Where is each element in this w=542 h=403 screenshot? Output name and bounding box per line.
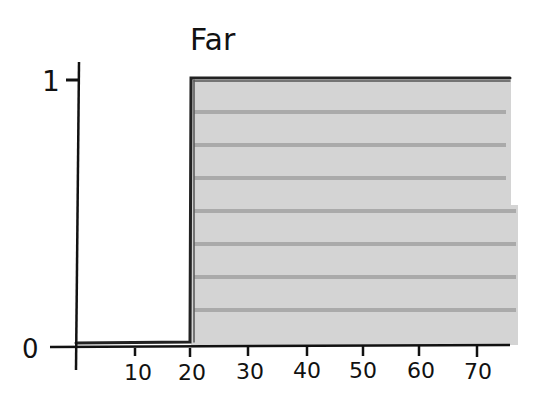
x-tick-label-40: 40 bbox=[293, 358, 321, 383]
y-axis bbox=[76, 62, 79, 370]
y-tick-label-0: 0 bbox=[22, 334, 39, 364]
x-tick-label-20: 20 bbox=[178, 360, 206, 385]
membership-chart: Far 1 0 10 20 30 40 50 bbox=[0, 0, 542, 403]
x-tick-labels: 10 20 30 40 50 60 70 bbox=[124, 358, 492, 385]
x-axis bbox=[50, 345, 510, 347]
x-tick-label-50: 50 bbox=[349, 358, 377, 383]
far-area bbox=[191, 80, 518, 345]
x-tick-label-10: 10 bbox=[124, 360, 152, 385]
y-tick-label-1: 1 bbox=[42, 65, 60, 98]
x-tick-label-30: 30 bbox=[236, 359, 264, 384]
chart-title: Far bbox=[190, 22, 236, 57]
x-tick-label-60: 60 bbox=[407, 358, 435, 383]
x-tick-label-70: 70 bbox=[464, 359, 492, 384]
